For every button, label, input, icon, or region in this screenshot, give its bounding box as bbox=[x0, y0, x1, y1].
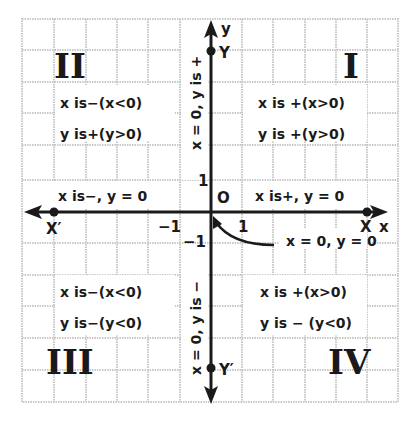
point-y-negative bbox=[207, 364, 216, 373]
x-negative-point-label: X′ bbox=[46, 220, 62, 238]
tick-y-positive: 1 bbox=[198, 172, 208, 190]
point-x-positive bbox=[363, 208, 372, 217]
tick-y-negative: −1 bbox=[183, 233, 206, 251]
quadrant-II-numeral: II bbox=[54, 46, 86, 86]
quadrant-I-numeral: I bbox=[343, 46, 359, 86]
negative-y-axis-note: x = 0, y is − bbox=[188, 281, 204, 375]
tick-x-positive: 1 bbox=[238, 218, 248, 236]
point-y-positive bbox=[207, 47, 216, 56]
quadrant-IV-numeral: IV bbox=[328, 342, 371, 382]
quadrant-IV-x-text: x is +(x>0) bbox=[260, 284, 347, 300]
y-axis-label: y bbox=[221, 20, 231, 38]
origin-label: O bbox=[217, 189, 230, 207]
x-axis-label: x bbox=[379, 218, 389, 236]
quadrant-II-x-text: x is−(x<0) bbox=[60, 95, 142, 111]
y-negative-point-label: Y′ bbox=[218, 361, 234, 379]
tick-x-negative: −1 bbox=[158, 218, 181, 236]
point-x-negative bbox=[50, 208, 59, 217]
quadrant-III-y-text: y is−(y<0) bbox=[60, 315, 142, 331]
quadrant-III-x-text: x is−(x<0) bbox=[60, 284, 142, 300]
y-positive-point-label: Y bbox=[218, 44, 231, 62]
quadrant-III-numeral: III bbox=[46, 342, 94, 382]
coordinate-plane-diagram: y Y Y′ X x X′ O 1 −1 1 −1 II I III IV x … bbox=[0, 0, 414, 421]
negative-x-axis-note: x is−, y = 0 bbox=[58, 188, 148, 204]
positive-y-axis-note: x = 0, y is + bbox=[188, 56, 204, 150]
quadrant-I-y-text: y is +(y>0) bbox=[258, 126, 345, 142]
quadrant-I-x-text: x is +(x>0) bbox=[258, 95, 345, 111]
origin-note: x = 0, y = 0 bbox=[286, 233, 377, 249]
quadrant-II-y-text: y is+(y>0) bbox=[60, 126, 142, 142]
positive-x-axis-note: x is+, y = 0 bbox=[255, 188, 345, 204]
quadrant-IV-y-text: y is − (y<0) bbox=[260, 315, 352, 331]
